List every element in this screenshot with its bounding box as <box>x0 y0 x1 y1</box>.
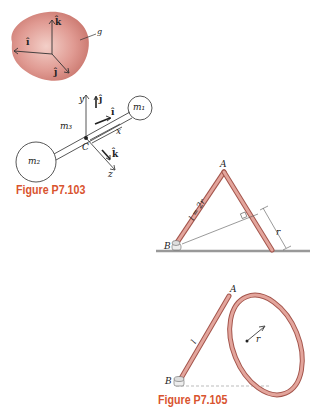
m2-label: m₂ <box>28 157 40 166</box>
figures-canvas <box>0 0 312 409</box>
perpendicular-distance-label: r <box>276 228 280 237</box>
body-label: g <box>97 28 102 36</box>
center-of-mass-dot <box>84 136 88 140</box>
apex-a-label-2: A <box>230 285 237 294</box>
j-unit-vector-label: ĵ <box>54 68 57 77</box>
figure-caption-p7-103: Figure P7.103 <box>16 182 85 197</box>
support-b-label-2: B <box>165 377 172 386</box>
i-vector-label: î <box>111 108 114 117</box>
j-vector-label: ĵ <box>99 95 102 104</box>
radius-label: r <box>256 335 260 344</box>
triangle-rod-diagram <box>156 172 310 251</box>
loop-rod-diagram <box>174 284 312 405</box>
support-b-label: B <box>164 242 171 251</box>
center-label: C <box>82 143 89 152</box>
m1-label: m₁ <box>133 103 145 112</box>
k-vector-label: k̂ <box>112 150 118 159</box>
k-unit-vector-label: k̂ <box>55 18 61 27</box>
m3-label: m₃ <box>60 122 72 131</box>
y-axis-label: y <box>79 95 84 104</box>
figure-caption-p7-105: Figure P7.105 <box>158 392 227 407</box>
z-axis-label: z <box>108 170 113 179</box>
x-axis-label: x <box>116 127 121 136</box>
dumbbell-diagram <box>16 95 152 182</box>
i-unit-vector-label: î <box>26 38 29 47</box>
apex-a-label: A <box>220 160 227 169</box>
